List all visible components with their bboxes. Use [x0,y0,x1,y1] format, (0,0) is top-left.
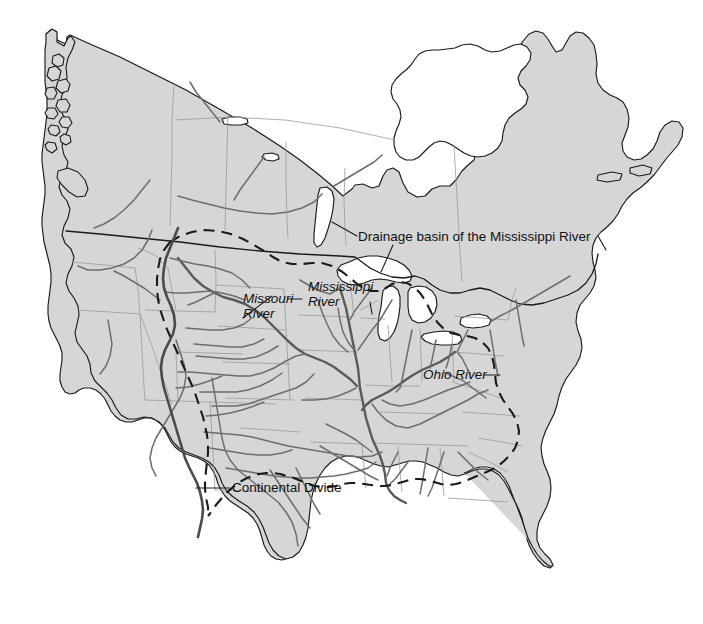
north-america-map: Drainage basin of the Mississippi River … [0,0,703,624]
label-drainage-basin: Drainage basin of the Mississippi River [358,229,591,244]
island-5 [56,99,70,112]
label-mississippi-river-line2: River [308,294,340,309]
island-8 [48,125,60,136]
map-figure: Drainage basin of the Mississippi River … [0,0,703,624]
island-2 [47,66,61,81]
label-missouri-river-line2: River [243,306,275,321]
island-4 [45,87,57,99]
label-mississippi-river-line1: Mississippi [308,279,374,294]
great-slave-lake [222,117,248,125]
label-ohio-river: Ohio River [423,367,487,382]
island-1 [52,54,64,67]
label-continental-divide: Continental Divide [232,480,342,495]
label-missouri-river-line1: Missouri [243,291,294,306]
